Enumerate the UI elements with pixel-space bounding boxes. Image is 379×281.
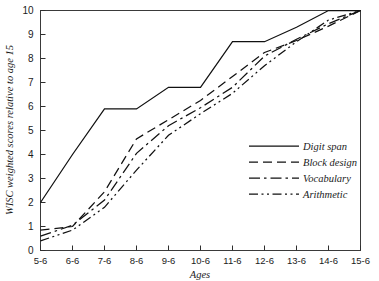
x-tick-label: 12-6 <box>255 255 274 266</box>
y-tick-label: 3 <box>28 173 34 184</box>
x-tick-label: 5-6 <box>34 255 48 266</box>
y-axis-title: WISC weighted scores relative to age 15 <box>4 45 15 215</box>
y-tick-label: 7 <box>28 77 34 88</box>
x-axis-tick-group <box>41 246 361 251</box>
y-tick-label: 1 <box>28 221 34 232</box>
y-axis-tick-labels: 012345678910 <box>22 5 34 256</box>
x-tick-label: 14-6 <box>319 255 338 266</box>
x-tick-label: 15-6 <box>351 255 370 266</box>
wisc-weighted-scores-line-chart: 012345678910 5-66-67-68-69-610-611-612-6… <box>0 0 379 281</box>
x-tick-label: 9-6 <box>162 255 176 266</box>
chart-container: 012345678910 5-66-67-68-69-610-611-612-6… <box>0 0 379 281</box>
x-tick-label: 8-6 <box>130 255 144 266</box>
plot-frame <box>41 11 361 251</box>
y-tick-label: 9 <box>28 29 34 40</box>
x-tick-label: 7-6 <box>98 255 112 266</box>
x-tick-label: 11-6 <box>223 255 241 266</box>
x-axis-tick-labels: 5-66-67-68-69-610-611-612-613-614-615-6 <box>34 255 370 266</box>
y-tick-label: 2 <box>28 197 34 208</box>
y-tick-label: 4 <box>28 149 34 160</box>
legend-label-vocabulary: Vocabulary <box>303 173 351 184</box>
y-tick-label: 8 <box>28 53 34 64</box>
series-line-arithmetic <box>41 11 361 241</box>
legend-label-block-design: Block design <box>303 157 357 168</box>
chart-legend: Digit spanBlock designVocabularyArithmet… <box>249 141 357 200</box>
y-tick-label: 10 <box>22 5 34 16</box>
x-tick-label: 6-6 <box>66 255 80 266</box>
y-axis-tick-group <box>41 11 46 251</box>
series-line-vocabulary <box>41 11 361 237</box>
legend-label-digit-span: Digit span <box>302 141 347 152</box>
x-axis-title: Ages <box>189 269 210 280</box>
legend-label-arithmetic: Arithmetic <box>302 189 348 200</box>
x-tick-label: 13-6 <box>287 255 306 266</box>
x-tick-label: 10-6 <box>191 255 210 266</box>
series-group <box>41 11 361 241</box>
y-tick-label: 6 <box>28 101 34 112</box>
y-tick-label: 5 <box>28 125 34 136</box>
